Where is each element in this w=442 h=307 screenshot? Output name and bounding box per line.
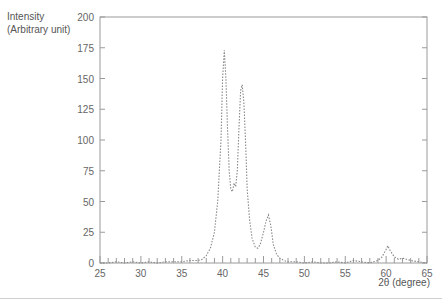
x-tick-label: 25 <box>94 268 106 279</box>
x-tick-label: 50 <box>299 268 311 279</box>
divider <box>0 298 442 299</box>
x-axis-label: 2θ (degree) <box>378 277 430 288</box>
y-tick-label: 150 <box>77 74 94 85</box>
y-tick-label: 175 <box>77 43 94 54</box>
xrd-chart: 0255075100125150175200253035404550556065 <box>0 0 442 307</box>
x-tick-label: 45 <box>258 268 270 279</box>
y-tick-label: 100 <box>77 135 94 146</box>
x-tick-label: 40 <box>217 268 229 279</box>
plot-frame <box>100 17 427 263</box>
x-tick-label: 35 <box>176 268 188 279</box>
intensity-curve <box>100 50 427 263</box>
y-tick-label: 200 <box>77 12 94 23</box>
y-tick-label: 125 <box>77 104 94 115</box>
x-tick-label: 55 <box>340 268 352 279</box>
x-tick-label: 30 <box>135 268 147 279</box>
y-tick-label: 75 <box>83 166 95 177</box>
y-tick-label: 25 <box>83 227 95 238</box>
y-tick-label: 50 <box>83 197 95 208</box>
